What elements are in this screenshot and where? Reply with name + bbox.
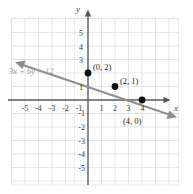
y-tick-label: -3	[78, 137, 85, 146]
x-tick-label: -3	[49, 104, 56, 113]
coordinate-graph-figure: y x -5 -4 -3 -2 -1 1 2 3 4 5 4 3 1 -1 -2…	[0, 0, 193, 194]
point-label-mid: (2, 1)	[120, 76, 139, 86]
y-tick-label: 1	[79, 83, 83, 92]
y-tick-label: 4	[79, 43, 83, 52]
x-tick-label: -2	[62, 104, 69, 113]
point-x-intercept	[139, 97, 146, 104]
y-tick-label: -5	[78, 164, 85, 173]
x-tick-label: 4	[141, 104, 145, 113]
y-tick-label: -1	[78, 109, 85, 118]
y-tick-label: 5	[79, 29, 83, 38]
y-axis-label: y	[75, 4, 80, 14]
equation-annotation: 3x + 6y = 12	[8, 66, 54, 76]
point-y-intercept	[85, 70, 92, 77]
x-tick-label: 1	[100, 104, 104, 113]
x-axis-label: x	[173, 103, 178, 113]
x-tick-label: -5	[22, 104, 29, 113]
y-tick-label: -4	[78, 150, 85, 159]
x-tick-label: -4	[35, 104, 42, 113]
figure-background	[0, 0, 193, 194]
point-label-x-intercept: (4, 0)	[123, 116, 142, 126]
x-tick-label: 2	[113, 104, 117, 113]
y-tick-label: 3	[79, 56, 83, 65]
point-label-y-intercept: (0, 2)	[93, 62, 112, 72]
x-tick-label: 3	[127, 104, 131, 113]
point-mid	[112, 83, 119, 90]
graph-canvas: y x -5 -4 -3 -2 -1 1 2 3 4 5 4 3 1 -1 -2…	[0, 0, 193, 194]
y-tick-label: -2	[78, 123, 85, 132]
